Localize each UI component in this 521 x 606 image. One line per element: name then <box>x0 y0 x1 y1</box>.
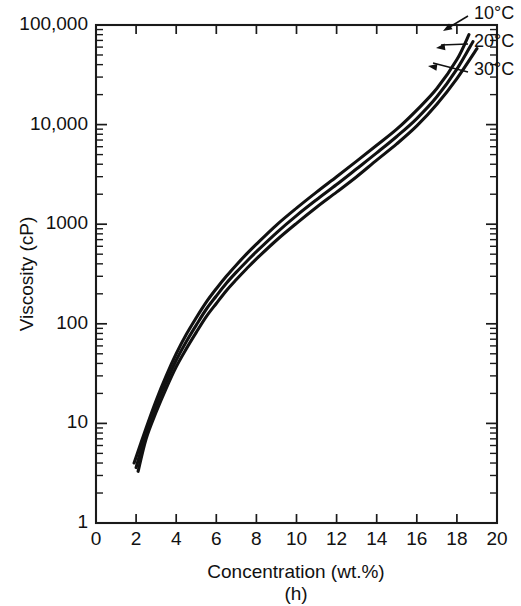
y-axis-title: Viscosity (cP) <box>16 217 37 332</box>
y-tick-label-1: 1 <box>77 511 88 532</box>
x-axis-ticks-bottom <box>96 514 497 523</box>
x-tick-label-0: 0 <box>91 528 102 549</box>
figure-panel: 02468101214161820 110100100010,000100,00… <box>0 0 521 606</box>
x-tick-label-4: 4 <box>171 528 182 549</box>
x-tick-label-18: 18 <box>446 528 467 549</box>
viscosity-concentration-chart: 02468101214161820 110100100010,000100,00… <box>0 0 521 606</box>
series-label-10c: 10°C <box>474 3 514 23</box>
x-tick-label-2: 2 <box>131 528 142 549</box>
panel-caption: (h) <box>284 583 307 604</box>
series-label-20c: 20°C <box>474 31 514 51</box>
y-tick-label-10: 10 <box>67 411 88 432</box>
y-tick-label-10000: 10,000 <box>30 113 88 134</box>
curve-30c <box>138 49 477 472</box>
x-tick-label-10: 10 <box>286 528 307 549</box>
y-tick-label-1000: 1000 <box>46 212 88 233</box>
leader-line-1 <box>441 44 468 45</box>
x-tick-label-8: 8 <box>251 528 262 549</box>
x-tick-label-6: 6 <box>211 528 222 549</box>
series-annotations: 10°C20°C30°C <box>428 3 514 79</box>
plot-frame <box>96 25 497 523</box>
curve-10c <box>134 35 469 463</box>
leader-arrowhead-1 <box>436 44 445 51</box>
y-tick-label-100000: 100,000 <box>19 13 88 34</box>
x-tick-label-16: 16 <box>406 528 427 549</box>
x-axis-tick-labels: 02468101214161820 <box>91 528 508 549</box>
y-axis-ticks-left <box>96 25 107 523</box>
x-tick-label-20: 20 <box>486 528 507 549</box>
x-axis-title: Concentration (wt.%) <box>207 561 384 582</box>
x-tick-label-14: 14 <box>366 528 388 549</box>
leader-arrowhead-2 <box>428 64 437 71</box>
series-label-30c: 30°C <box>474 59 514 79</box>
y-axis-ticks-right <box>486 25 497 523</box>
y-tick-label-100: 100 <box>56 312 88 333</box>
x-axis-ticks-top <box>96 25 497 34</box>
data-curves <box>134 35 477 472</box>
x-tick-label-12: 12 <box>326 528 347 549</box>
leader-line-0 <box>448 16 468 28</box>
